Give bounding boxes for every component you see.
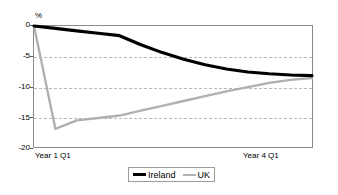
legend-item-uk[interactable]: UK [183,170,211,180]
legend-item-ireland[interactable]: Ireland [133,170,176,180]
y-tick-label: 0 [4,21,30,29]
y-tick-label: -5 [4,52,30,60]
chart-legend: Ireland UK [128,167,215,182]
series-line-uk [34,26,312,129]
legend-label-uk: UK [198,170,211,180]
series-container [34,26,312,147]
legend-swatch-icon-ireland [133,173,146,176]
chart-figure: % 0 -5 -10 -15 -20 Year 1 Q1 Year 4 Q1 I… [0,0,338,195]
y-tick-label: -15 [4,114,30,122]
y-tick-label: -20 [4,144,30,152]
legend-swatch-icon-uk [183,174,196,176]
y-tick-mark [30,148,33,149]
x-tick-label-start: Year 1 Q1 [35,151,71,160]
x-tick-label-end: Year 4 Q1 [243,151,279,160]
series-line-ireland [34,26,312,76]
y-tick-label: -10 [4,83,30,91]
plot-area [33,25,313,148]
legend-label-ireland: Ireland [148,170,176,180]
y-axis-unit-label: % [35,12,42,20]
